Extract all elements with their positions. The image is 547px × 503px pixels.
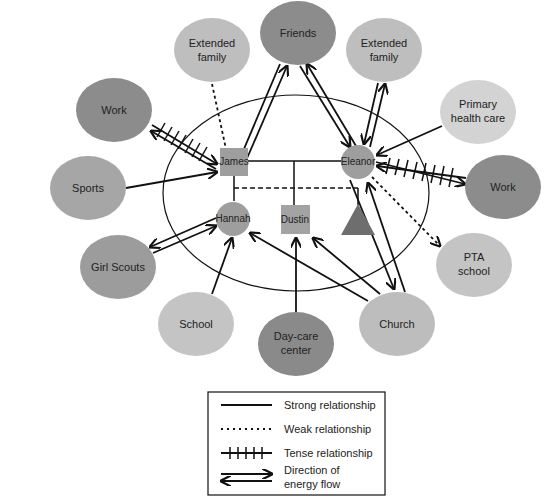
svg-text:family: family <box>198 51 227 63</box>
line-extfam-right-eleanor-a <box>364 83 378 144</box>
line-friends-james-b <box>245 66 287 163</box>
line-eleanor-pta <box>372 177 440 246</box>
svg-text:James: James <box>219 156 248 167</box>
system-sports: Sports <box>50 156 126 220</box>
eleanor-node: Eleanor <box>341 145 376 179</box>
legend-strong-label: Strong relationship <box>284 399 376 411</box>
line-friends-eleanor-a <box>300 66 350 147</box>
line-friends-eleanor-b <box>307 64 356 146</box>
legend-direction-label-2: energy flow <box>284 478 340 490</box>
svg-text:Work: Work <box>490 181 516 193</box>
svg-text:Eleanor: Eleanor <box>341 156 376 167</box>
line-extfam-right-eleanor-b <box>370 84 385 147</box>
svg-text:Hannah: Hannah <box>215 213 250 224</box>
system-pta-school: PTA school <box>436 233 512 297</box>
system-extended-family-left: Extended family <box>174 18 250 82</box>
dustin-node: Dustin <box>281 205 310 234</box>
system-girl-scouts: Girl Scouts <box>80 235 156 299</box>
svg-text:Sports: Sports <box>72 182 104 194</box>
family-structure-lines <box>234 161 358 205</box>
line-work-left-james-a <box>152 125 217 164</box>
legend-weak-label: Weak relationship <box>284 423 371 435</box>
svg-text:Extended: Extended <box>361 37 407 49</box>
hannah-node: Hannah <box>215 202 250 236</box>
svg-text:Girl Scouts: Girl Scouts <box>91 261 145 273</box>
pregnancy-triangle-icon <box>341 204 375 235</box>
line-girlscouts-hannah-a <box>150 218 216 247</box>
system-school: School <box>158 292 234 356</box>
system-day-care-center: Day-care center <box>258 312 334 376</box>
line-girlscouts-hannah-b <box>153 226 216 253</box>
svg-text:center: center <box>281 344 312 356</box>
svg-text:Work: Work <box>101 104 127 116</box>
system-work-right: Work <box>465 155 541 219</box>
svg-text:Primary: Primary <box>459 98 497 110</box>
svg-text:family: family <box>370 51 399 63</box>
line-work-left-james-b <box>151 131 216 169</box>
svg-text:Extended: Extended <box>189 37 235 49</box>
line-sports-james <box>126 172 217 188</box>
system-primary-health-care: Primary health care <box>440 80 516 144</box>
line-phc-eleanor <box>377 126 442 155</box>
line-church-dustin <box>313 238 380 294</box>
svg-text:health care: health care <box>451 112 505 124</box>
system-friends: Friends <box>260 1 336 65</box>
svg-text:Church: Church <box>379 318 414 330</box>
svg-text:School: School <box>179 318 213 330</box>
system-extended-family-right: Extended family <box>346 18 422 82</box>
svg-text:Friends: Friends <box>280 27 317 39</box>
system-work-left: Work <box>76 78 152 142</box>
svg-text:PTA: PTA <box>464 251 485 263</box>
legend: Strong relationship Weak relationship Te… <box>208 392 385 495</box>
svg-text:Dustin: Dustin <box>281 214 309 225</box>
line-school-hannah <box>212 238 232 294</box>
svg-text:Day-care: Day-care <box>274 330 319 342</box>
system-church: Church <box>359 292 435 356</box>
james-node: James <box>219 148 248 176</box>
legend-direction-label-1: Direction of <box>284 464 341 476</box>
svg-text:school: school <box>458 265 490 277</box>
ecomap-diagram: James Eleanor Hannah Dustin Friends Exte… <box>0 0 547 503</box>
relationship-lines <box>126 64 466 314</box>
legend-tense-label: Tense relationship <box>284 447 373 459</box>
